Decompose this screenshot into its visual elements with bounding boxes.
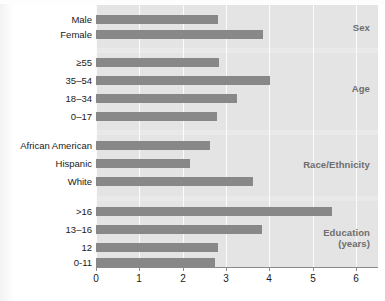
bar-education-12	[96, 243, 218, 252]
group-label-age: Age	[352, 83, 370, 94]
bar-chart: Sex Age Race/Ethnicity Education (years)…	[0, 0, 385, 301]
category-label-white: White	[0, 177, 92, 187]
x-tick-label-4: 4	[257, 273, 281, 284]
bar-sex-female	[96, 30, 263, 39]
x-tick-label-5: 5	[301, 273, 325, 284]
x-tick-mark-4	[269, 267, 270, 271]
group-label-race: Race/Ethnicity	[303, 159, 370, 170]
x-tick-label-1: 1	[127, 273, 151, 284]
category-label-female: Female	[0, 30, 92, 40]
category-label-male: Male	[0, 15, 92, 25]
category-label-hispanic: Hispanic	[0, 159, 92, 169]
bar-race-hispanic	[96, 159, 190, 168]
category-label-age-55plus: ≥55	[0, 58, 92, 68]
bar-sex-male	[96, 15, 218, 24]
x-tick-mark-6	[356, 267, 357, 271]
group-label-education: Education (years)	[323, 227, 370, 249]
bar-age-18-34	[96, 94, 237, 103]
x-tick-mark-0	[96, 267, 97, 271]
x-tick-mark-2	[183, 267, 184, 271]
category-label-edu-12: 12	[0, 243, 92, 253]
bar-race-african-american	[96, 141, 210, 150]
category-label-age-0-17: 0–17	[0, 112, 92, 122]
x-tick-mark-1	[139, 267, 140, 271]
gridline-5	[313, 5, 314, 267]
bar-age-55plus	[96, 58, 219, 67]
category-label-african-american: African American	[0, 141, 92, 151]
x-tick-label-0: 0	[84, 273, 108, 284]
bar-race-white	[96, 177, 253, 186]
bar-education-gt16	[96, 207, 332, 216]
category-label-age-35-54: 35–54	[0, 76, 92, 86]
gridline-4	[269, 5, 270, 267]
x-tick-label-2: 2	[171, 273, 195, 284]
x-tick-mark-5	[313, 267, 314, 271]
x-tick-label-3: 3	[214, 273, 238, 284]
category-label-layer: Male Female ≥55 35–54 18–34 0–17 African…	[0, 5, 92, 267]
category-label-edu-0-11: 0-11	[0, 258, 92, 268]
bar-age-0-17	[96, 112, 217, 121]
category-label-edu-gt16: >16	[0, 207, 92, 217]
plot-area: Sex Age Race/Ethnicity Education (years)	[96, 5, 378, 267]
bar-education-13-16	[96, 225, 262, 234]
bar-age-35-54	[96, 76, 270, 85]
page-top-shade	[0, 0, 385, 4]
group-label-sex: Sex	[353, 22, 370, 33]
category-label-edu-13-16: 13–16	[0, 225, 92, 235]
x-tick-label-6: 6	[344, 273, 368, 284]
category-label-age-18-34: 18–34	[0, 94, 92, 104]
bar-education-0-11	[96, 258, 215, 267]
x-tick-mark-3	[226, 267, 227, 271]
